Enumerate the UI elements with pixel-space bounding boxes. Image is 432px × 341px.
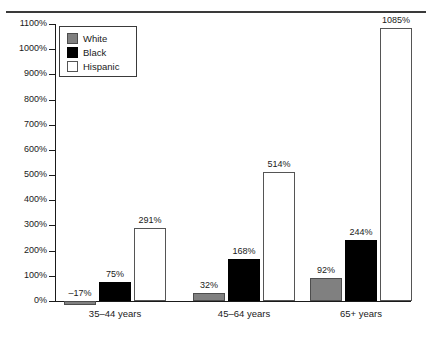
y-axis-tick bbox=[49, 49, 55, 50]
y-axis-tick-label: 0% bbox=[0, 296, 47, 305]
bar-value-label: –17% bbox=[56, 289, 104, 298]
legend-label-black: Black bbox=[83, 48, 106, 58]
bar-hispanic-0 bbox=[134, 228, 166, 301]
y-axis-tick-label: 300% bbox=[0, 220, 47, 229]
y-axis-tick bbox=[49, 100, 55, 101]
bar-hispanic-1 bbox=[263, 172, 295, 301]
bar-black-0 bbox=[99, 282, 131, 301]
bar-white-2 bbox=[310, 278, 342, 301]
y-axis-tick-label: 100% bbox=[0, 271, 47, 280]
bar-value-label: 244% bbox=[337, 228, 385, 237]
bar-value-label: 92% bbox=[302, 266, 350, 275]
y-axis-tick-label: 500% bbox=[0, 170, 47, 179]
bar-hispanic-2 bbox=[380, 28, 412, 301]
y-axis-tick-label: 1000% bbox=[0, 44, 47, 53]
legend-item-black: Black bbox=[67, 46, 106, 59]
x-axis-group-label: 45–64 years bbox=[194, 309, 294, 319]
top-divider-rule bbox=[6, 11, 426, 13]
y-axis-tick bbox=[49, 74, 55, 75]
legend-swatch-hispanic-icon bbox=[67, 61, 78, 72]
bar-black-1 bbox=[228, 259, 260, 301]
bar-black-2 bbox=[345, 240, 377, 301]
y-axis-tick bbox=[49, 301, 55, 302]
legend-label-white: White bbox=[83, 34, 107, 44]
x-axis-group-label: 35–44 years bbox=[65, 309, 165, 319]
x-axis-group-label: 65+ years bbox=[311, 309, 411, 319]
legend-swatch-white-icon bbox=[67, 33, 78, 44]
bar-value-label: 168% bbox=[220, 247, 268, 256]
y-axis-tick bbox=[49, 175, 55, 176]
y-axis-tick-label: 700% bbox=[0, 120, 47, 129]
y-axis-tick-label: 600% bbox=[0, 145, 47, 154]
legend-swatch-black-icon bbox=[67, 47, 78, 58]
legend-label-hispanic: Hispanic bbox=[83, 62, 119, 72]
chart-legend: White Black Hispanic bbox=[59, 26, 137, 77]
bar-white-0 bbox=[64, 301, 96, 305]
y-axis-tick bbox=[49, 200, 55, 201]
y-axis-tick bbox=[49, 251, 55, 252]
bar-value-label: 291% bbox=[126, 216, 174, 225]
bar-white-1 bbox=[193, 293, 225, 301]
bar-value-label: 514% bbox=[255, 160, 303, 169]
legend-item-hispanic: Hispanic bbox=[67, 60, 119, 73]
y-axis-tick-label: 900% bbox=[0, 69, 47, 78]
y-axis-tick bbox=[49, 276, 55, 277]
y-axis-tick bbox=[49, 150, 55, 151]
bar-value-label: 32% bbox=[185, 281, 233, 290]
bar-value-label: 75% bbox=[91, 270, 139, 279]
bar-value-label: 1085% bbox=[372, 16, 420, 25]
y-axis-line bbox=[55, 24, 56, 302]
y-axis-tick bbox=[49, 225, 55, 226]
bar-chart: 0%100%200%300%400%500%600%700%800%900%10… bbox=[0, 0, 432, 341]
y-axis-tick-label: 1100% bbox=[0, 19, 47, 28]
y-axis-tick-label: 800% bbox=[0, 95, 47, 104]
y-axis-tick bbox=[49, 125, 55, 126]
y-axis-tick-label: 400% bbox=[0, 195, 47, 204]
y-axis-tick bbox=[49, 24, 55, 25]
x-axis-line bbox=[55, 301, 411, 302]
y-axis-tick-label: 200% bbox=[0, 246, 47, 255]
legend-item-white: White bbox=[67, 32, 107, 45]
